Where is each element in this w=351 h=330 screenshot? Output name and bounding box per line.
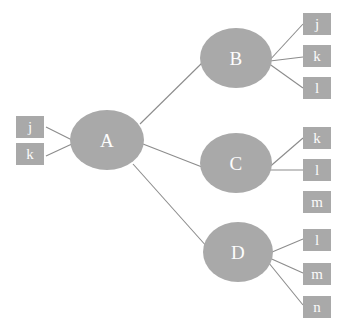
node-a[interactable]: A: [70, 110, 144, 170]
edge-A-to-B: [140, 62, 203, 124]
leaf-box-d-n[interactable]: n: [303, 296, 331, 318]
leaf-label-left-k: k: [26, 147, 34, 162]
leaf-label-d-n: n: [313, 300, 321, 315]
edge-B-to-b-j: [268, 24, 303, 62]
leaf-label-c-m: m: [311, 195, 323, 210]
leaf-label-left-j: j: [28, 120, 32, 135]
node-b[interactable]: B: [200, 28, 272, 88]
edge-layer: [0, 0, 351, 330]
node-d[interactable]: D: [203, 222, 273, 282]
node-label-c: C: [229, 154, 242, 173]
node-label-b: B: [229, 49, 242, 68]
node-label-d: D: [231, 243, 245, 262]
leaf-box-d-l[interactable]: l: [303, 229, 331, 251]
leaf-box-c-l[interactable]: l: [303, 159, 331, 181]
leaf-label-c-l: l: [315, 163, 319, 178]
leaf-label-b-l: l: [315, 81, 319, 96]
edge-A-to-C: [143, 144, 202, 167]
leaf-label-d-l: l: [315, 233, 319, 248]
edge-A-to-D: [133, 164, 208, 248]
edge-B-to-b-k: [270, 57, 303, 61]
leaf-box-left-k[interactable]: k: [16, 143, 44, 165]
leaf-box-c-k[interactable]: k: [303, 127, 331, 149]
leaf-label-b-j: j: [315, 17, 319, 32]
leaf-box-d-m[interactable]: m: [303, 263, 331, 285]
leaf-box-c-m[interactable]: m: [303, 191, 331, 213]
leaf-box-left-j[interactable]: j: [16, 116, 44, 138]
edge-B-to-b-l: [268, 63, 303, 88]
diagram-canvas: ABCDjkjklklmlmn: [0, 0, 351, 330]
leaf-label-c-k: k: [313, 131, 321, 146]
leaf-box-b-k[interactable]: k: [303, 45, 331, 67]
leaf-box-b-j[interactable]: j: [303, 13, 331, 35]
node-label-a: A: [100, 131, 114, 150]
leaf-label-d-m: m: [311, 267, 323, 282]
leaf-box-b-l[interactable]: l: [303, 77, 331, 99]
node-c[interactable]: C: [200, 133, 272, 193]
leaf-label-b-k: k: [313, 49, 321, 64]
